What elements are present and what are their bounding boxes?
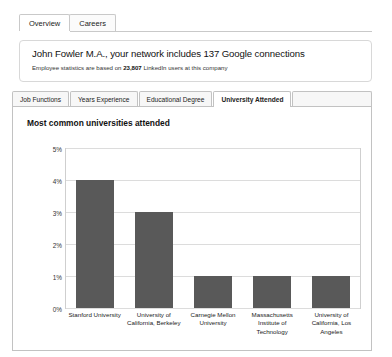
tab-years-experience[interactable]: Years Experience (70, 91, 137, 107)
section-tab-label: University Attended (221, 96, 283, 103)
network-subtitle: Employee statistics are based on 23,807 … (32, 64, 227, 71)
bar[interactable] (76, 180, 114, 308)
section-tab-bar: Job Functions Years Experience Education… (12, 91, 372, 107)
y-axis-tick-label: 3% (53, 210, 62, 217)
x-axis-tick-label: Carnegie Mellon University (183, 311, 242, 336)
tab-university-attended[interactable]: University Attended (213, 91, 291, 107)
bar[interactable] (135, 212, 173, 308)
bar-slot (184, 148, 243, 308)
section-tab-filler (292, 91, 372, 107)
top-tab-careers[interactable]: Careers (69, 14, 116, 31)
section-tab-label: Educational Degree (147, 96, 205, 103)
top-tab-overview[interactable]: Overview (19, 14, 70, 31)
subtitle-prefix: Employee statistics are based on (32, 64, 123, 71)
x-axis-tick-label: University of California, Berkeley (124, 311, 183, 336)
bar-series (66, 148, 360, 308)
y-axis-tick-label: 2% (53, 242, 62, 249)
tab-educational-degree[interactable]: Educational Degree (139, 91, 213, 107)
x-axis-tick-label: Stanford University (65, 311, 124, 336)
y-axis-tick-label: 5% (53, 146, 62, 153)
bar[interactable] (194, 276, 232, 308)
chart-plot-area: 5%4%3%2%1%0% (65, 148, 361, 309)
top-tab-label: Careers (79, 19, 106, 28)
chart-title: Most common universities attended (27, 118, 170, 128)
section-tab-label: Years Experience (78, 96, 129, 103)
bar-slot (242, 148, 301, 308)
bar-slot (301, 148, 360, 308)
network-headline: John Fowler M.A., your network includes … (32, 48, 305, 59)
top-tab-label: Overview (29, 19, 60, 28)
bar-slot (66, 148, 125, 308)
gridline: 0% (66, 308, 360, 309)
x-axis-tick-label: Massachusetts Institute of Technology (243, 311, 302, 336)
bar[interactable] (312, 276, 350, 308)
chart-panel: Most common universities attended 5%4%3%… (12, 106, 372, 351)
subtitle-user-count: 23,807 (123, 64, 142, 71)
x-axis-tick-label: University of California, Los Angeles (302, 311, 361, 336)
bar-slot (125, 148, 184, 308)
y-axis-tick-label: 4% (53, 178, 62, 185)
bar[interactable] (253, 276, 291, 308)
section-tab-label: Job Functions (20, 96, 61, 103)
y-axis-tick-label: 1% (53, 274, 62, 281)
network-info-card: John Fowler M.A., your network includes … (19, 40, 372, 82)
subtitle-suffix: LinkedIn users at this company (142, 64, 228, 71)
top-tab-bar: Overview Careers (19, 14, 372, 32)
tab-job-functions[interactable]: Job Functions (12, 91, 69, 107)
x-axis-labels: Stanford UniversityUniversity of Califor… (65, 311, 361, 336)
y-axis-tick-label: 0% (53, 306, 62, 313)
